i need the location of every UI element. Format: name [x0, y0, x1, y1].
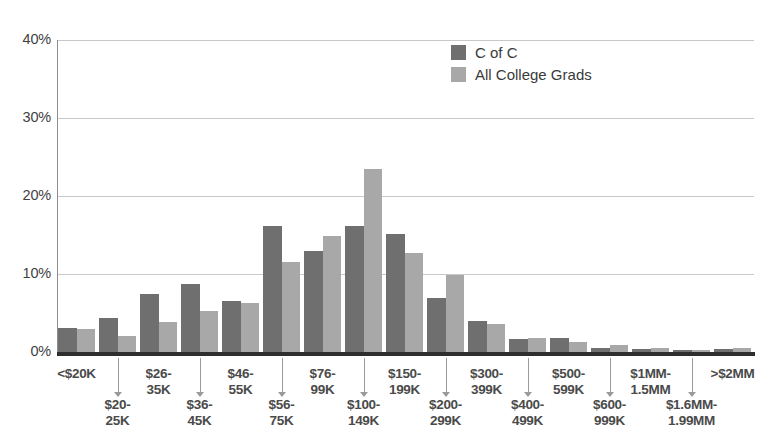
bar-1-1 [118, 336, 137, 352]
bar-0-8 [386, 234, 405, 352]
x-tick-label-1: $20-25K [74, 397, 162, 428]
x-tick-label-line2: 55K [197, 382, 285, 398]
x-tick-label-15: $1.6MM-1.99MM [648, 397, 736, 428]
bar-1-13 [610, 345, 629, 352]
arrow-head [688, 392, 696, 397]
x-axis-labels: <$20K$20-25K$26-35K$36-45K$46-55K$56-75K… [0, 352, 760, 447]
x-tick-label-7: $100-149K [320, 397, 408, 428]
x-tick-label-11: $400-499K [484, 397, 572, 428]
legend-label: C of C [475, 44, 518, 61]
x-tick-label-8: $150-199K [361, 366, 449, 397]
x-tick-label-line2: 149K [320, 413, 408, 429]
x-tick-label-12: $500-599K [525, 366, 613, 397]
bar-0-7 [345, 226, 364, 352]
x-tick-label-line1: $500- [525, 366, 613, 382]
x-tick-label-line2: 1.99MM [648, 413, 736, 429]
legend-item-0[interactable]: C of C [451, 44, 592, 61]
bar-0-4 [222, 301, 241, 352]
chart-legend: C of CAll College Grads [451, 44, 592, 83]
bar-0-11 [509, 339, 528, 352]
x-tick-label-line1: $400- [484, 397, 572, 413]
x-tick-label-line1: $36- [156, 397, 244, 413]
x-tick-label-6: $76-99K [279, 366, 367, 397]
bar-1-5 [282, 262, 301, 352]
x-tick-label-14: $1MM-1.5MM [607, 366, 695, 397]
bar-0-12 [550, 338, 569, 352]
bar-1-3 [200, 311, 219, 352]
x-tick-label-line2: 299K [402, 413, 490, 429]
bar-1-7 [364, 169, 383, 352]
bar-0-6 [304, 251, 323, 352]
x-tick-label-9: $200-299K [402, 397, 490, 428]
x-tick-label-line1: <$20K [33, 366, 121, 382]
x-tick-label-line1: $200- [402, 397, 490, 413]
bar-0-5 [263, 226, 282, 352]
legend-swatch-icon [451, 45, 466, 60]
x-tick-label-0: <$20K [33, 366, 121, 382]
x-tick-label-3: $36-45K [156, 397, 244, 428]
x-tick-label-line2: 45K [156, 413, 244, 429]
x-tick-label-line2: 999K [566, 413, 654, 429]
x-tick-label-line1: $26- [115, 366, 203, 382]
x-tick-label-line1: $300- [443, 366, 531, 382]
x-tick-label-4: $46-55K [197, 366, 285, 397]
bar-chart: 40%30%20%10%0% C of CAll College Grads <… [0, 0, 760, 447]
bar-1-2 [159, 322, 178, 352]
x-tick-label-line2: 199K [361, 382, 449, 398]
bar-1-6 [323, 236, 342, 352]
x-tick-label-line1: >$2MM [689, 366, 760, 382]
bar-0-10 [468, 321, 487, 352]
legend-label: All College Grads [475, 66, 592, 83]
x-tick-label-line2: 35K [115, 382, 203, 398]
legend-swatch-icon [451, 67, 466, 82]
x-tick-label-line2: 1.5MM [607, 382, 695, 398]
x-tick-label-line1: $20- [74, 397, 162, 413]
legend-item-1[interactable]: All College Grads [451, 66, 592, 83]
bar-1-11 [528, 338, 547, 352]
bar-0-9 [427, 298, 446, 352]
bar-1-4 [241, 303, 260, 352]
x-tick-label-line1: $46- [197, 366, 285, 382]
x-tick-label-line2: 399K [443, 382, 531, 398]
x-tick-label-13: $600-999K [566, 397, 654, 428]
bar-1-8 [405, 253, 424, 352]
x-tick-label-line1: $150- [361, 366, 449, 382]
x-tick-label-line2: 599K [525, 382, 613, 398]
bar-1-12 [569, 342, 588, 352]
x-tick-label-line2: 25K [74, 413, 162, 429]
x-tick-label-line2: 99K [279, 382, 367, 398]
x-tick-label-16: >$2MM [689, 366, 760, 382]
x-tick-label-line1: $100- [320, 397, 408, 413]
bar-0-3 [181, 284, 200, 352]
bar-1-0 [77, 329, 96, 352]
x-tick-label-line1: $1MM- [607, 366, 695, 382]
x-tick-label-line2: 75K [238, 413, 326, 429]
bar-0-2 [140, 294, 159, 353]
x-tick-label-10: $300-399K [443, 366, 531, 397]
x-tick-label-line1: $76- [279, 366, 367, 382]
x-tick-label-5: $56-75K [238, 397, 326, 428]
x-tick-label-line2: 499K [484, 413, 572, 429]
x-tick-label-line1: $600- [566, 397, 654, 413]
bar-0-1 [99, 318, 118, 352]
x-tick-label-line1: $56- [238, 397, 326, 413]
bar-1-9 [446, 275, 465, 352]
bar-0-0 [58, 328, 77, 352]
x-tick-label-2: $26-35K [115, 366, 203, 397]
bar-1-10 [487, 324, 506, 352]
x-tick-label-line1: $1.6MM- [648, 397, 736, 413]
